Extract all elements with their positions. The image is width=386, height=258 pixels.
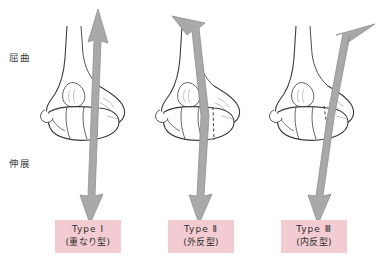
type-label-3: Type Ⅲ (内反型)	[281, 220, 347, 253]
panel-type-2	[156, 16, 240, 224]
type-label-1-title: Type Ⅰ	[55, 223, 121, 236]
type-label-1-subtitle: (重なり型)	[55, 236, 121, 249]
axis-label-flexion: 屈曲	[9, 50, 30, 64]
type-label-1: Type Ⅰ (重なり型)	[55, 220, 121, 253]
humerus-bone-1	[41, 26, 125, 140]
axis-label-extension: 伸展	[9, 156, 30, 170]
panel-type-1	[41, 9, 125, 224]
type-label-3-subtitle: (内反型)	[281, 236, 347, 249]
type-label-2-subtitle: (外反型)	[168, 236, 234, 249]
panel-type-3	[270, 24, 375, 224]
type-label-2-title: Type Ⅱ	[168, 223, 234, 236]
type-label-2: Type Ⅱ (外反型)	[168, 220, 234, 253]
type-label-3-title: Type Ⅲ	[281, 223, 347, 236]
